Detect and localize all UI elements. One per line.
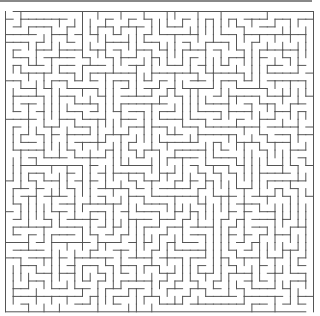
maze-grid [0, 0, 320, 316]
maze-walls [6, 12, 314, 312]
